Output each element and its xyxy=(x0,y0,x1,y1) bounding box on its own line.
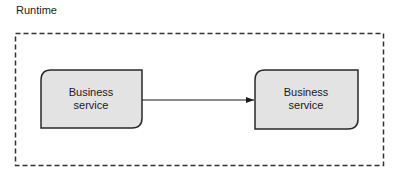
label-line-1: Business xyxy=(41,86,141,99)
label-line-1: Business xyxy=(256,86,356,99)
label-line-2: service xyxy=(256,99,356,112)
label-line-2: service xyxy=(41,99,141,112)
business-service-label-right: Business service xyxy=(256,86,356,112)
business-service-label-left: Business service xyxy=(41,86,141,112)
